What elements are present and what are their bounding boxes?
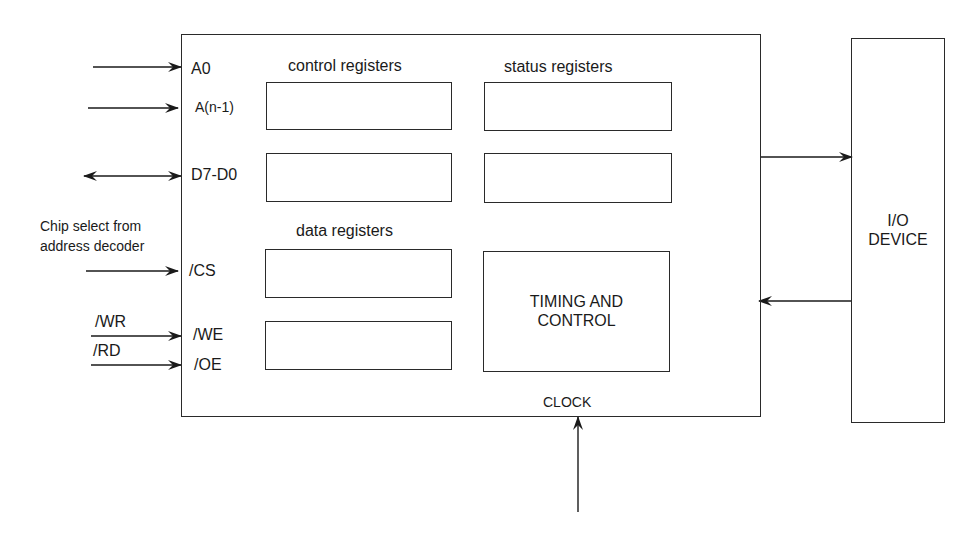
pin-a0-label: A0 [191, 60, 211, 78]
control-register-2 [266, 153, 452, 202]
timing-control-line-1: TIMING AND [530, 293, 623, 311]
status-registers-heading: status registers [504, 58, 612, 76]
pin-we-label: /WE [193, 326, 223, 344]
pin-an1-label: A(n-1) [195, 99, 234, 115]
io-device-line-1: I/O [887, 212, 908, 230]
status-register-2 [484, 153, 672, 203]
io-device-block: I/O DEVICE [851, 38, 945, 423]
pin-cs-label: /CS [189, 262, 216, 280]
io-device-line-2: DEVICE [868, 231, 928, 249]
timing-and-control-block: TIMING AND CONTROL [483, 251, 670, 372]
wr-signal-label: /WR [95, 313, 126, 331]
chip-select-note-line-2: address decoder [40, 238, 144, 254]
clock-label: CLOCK [543, 394, 591, 410]
pin-oe-label: /OE [194, 356, 222, 374]
timing-control-line-2: CONTROL [537, 312, 615, 330]
pin-data-label: D7-D0 [191, 166, 237, 184]
status-register-1 [484, 82, 672, 131]
rd-signal-label: /RD [93, 342, 121, 360]
control-registers-heading: control registers [288, 57, 402, 75]
data-register-2 [265, 321, 452, 370]
control-register-1 [266, 82, 452, 130]
data-register-1 [265, 249, 452, 298]
data-registers-heading: data registers [296, 222, 393, 240]
chip-select-note-line-1: Chip select from [40, 218, 141, 234]
